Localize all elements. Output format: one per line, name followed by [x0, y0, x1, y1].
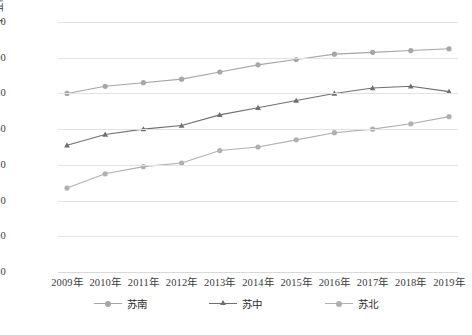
gridline: [58, 58, 458, 59]
y-tick-label: 6.20: [0, 196, 6, 206]
legend-marker-icon: [209, 298, 237, 309]
data-point: [370, 50, 375, 55]
data-point: [141, 80, 146, 85]
legend-item-苏中[interactable]: 苏中: [209, 296, 263, 311]
gridline: [58, 93, 458, 94]
data-point: [103, 171, 108, 176]
line-chart: 5.806.006.206.406.606.807.007.20 产业结构高级化…: [0, 0, 472, 335]
data-point: [408, 48, 413, 53]
chart-legend: 苏南苏中苏北: [0, 296, 472, 311]
x-tick-label: 2014年: [242, 274, 274, 289]
gridline: [58, 201, 458, 202]
plot-area: [58, 22, 458, 272]
y-tick-label: 6.80: [0, 88, 6, 98]
data-point: [64, 185, 69, 190]
data-point: [217, 69, 222, 74]
x-tick-label: 2019年: [433, 274, 465, 289]
data-point: [255, 144, 260, 149]
y-tick-label: 6.00: [0, 231, 6, 241]
data-point: [332, 52, 337, 57]
data-point: [255, 62, 260, 67]
y-tick-label: 5.80: [0, 267, 6, 277]
x-tick-label: 2018年: [395, 274, 427, 289]
y-tick-label: 7.00: [0, 53, 6, 63]
data-point: [332, 130, 337, 135]
legend-label: 苏中: [242, 296, 263, 311]
x-tick-label: 2009年: [51, 274, 83, 289]
x-tick-label: 2011年: [128, 274, 159, 289]
data-point: [408, 121, 413, 126]
y-tick-label: 6.60: [0, 124, 6, 134]
data-point: [103, 84, 108, 89]
legend-label: 苏南: [127, 296, 148, 311]
data-point: [446, 46, 451, 51]
gridline: [58, 129, 458, 130]
data-point: [294, 137, 299, 142]
x-tick-label: 2013年: [204, 274, 236, 289]
y-axis-title: 产业结构高级化水平: [0, 0, 5, 52]
series-layer: [58, 22, 458, 272]
x-tick-label: 2012年: [166, 274, 198, 289]
gridline: [58, 236, 458, 237]
x-tick-label: 2015年: [280, 274, 312, 289]
legend-marker-icon: [325, 298, 353, 309]
legend-item-苏南[interactable]: 苏南: [94, 296, 148, 311]
gridline: [58, 22, 458, 23]
gridline: [58, 272, 458, 273]
x-tick-label: 2017年: [357, 274, 389, 289]
x-tick-label: 2010年: [89, 274, 121, 289]
legend-label: 苏北: [358, 296, 379, 311]
x-tick-label: 2016年: [319, 274, 351, 289]
gridline: [58, 165, 458, 166]
x-axis: 2009年2010年2011年2012年2013年2014年2015年2016年…: [58, 274, 458, 290]
data-point: [179, 77, 184, 82]
legend-item-苏北[interactable]: 苏北: [325, 296, 379, 311]
data-point: [446, 114, 451, 119]
data-point: [217, 148, 222, 153]
y-tick-label: 6.40: [0, 160, 6, 170]
series-line-苏中: [67, 86, 449, 145]
legend-marker-icon: [94, 298, 122, 309]
series-line-苏北: [67, 117, 449, 188]
